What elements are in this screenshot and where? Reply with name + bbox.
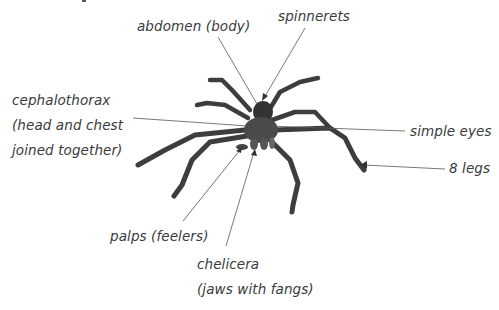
label-legs: 8 legs [449,156,490,181]
palp-right [269,137,275,149]
label-cephalothorax-line2: (head and chest [12,113,123,138]
label-cephalothorax-line1: cephalothorax [12,88,123,113]
line-chelicera [226,152,254,246]
label-simple-eyes: simple eyes [410,119,492,144]
label-chelicera: chelicera (jaws with fangs) [197,252,314,302]
label-chelicera-line2: (jaws with fangs) [197,277,314,302]
chelicera-right [260,138,268,150]
line-legs [363,165,445,169]
label-abdomen: abdomen (body) [137,14,250,39]
arrow-chelicera [251,149,257,156]
leg-right-2 [272,112,330,128]
label-palps: palps (feelers) [110,224,209,249]
leader-lines [133,28,445,246]
leg-left-2 [197,103,248,118]
chelicera-left [250,138,258,150]
leg-right-1 [268,78,318,112]
leg-right-4 [268,138,298,212]
spider-illustration [138,78,364,212]
label-chelicera-line1: chelicera [197,252,314,277]
top-mark [82,0,86,2]
line-cephalothorax [133,118,248,126]
label-cephalothorax: cephalothorax (head and chest joined tog… [12,88,123,163]
label-cephalothorax-line3: joined together) [12,138,123,163]
leg-right-3 [274,128,364,170]
label-spinnerets: spinnerets [278,4,350,29]
arrow-spinnerets [262,93,268,101]
